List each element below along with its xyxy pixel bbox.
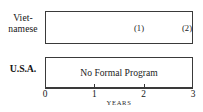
row-label-vietnamese-line1: Viet- bbox=[13, 12, 33, 23]
footnote-marker-2: (2) bbox=[182, 23, 192, 33]
row-label-usa: U.S.A. bbox=[2, 64, 44, 75]
x-axis-tick-label: 2 bbox=[137, 89, 151, 99]
bar-vietnamese: (1) (2) bbox=[45, 11, 193, 44]
timeline-figure: Viet- namese (1) (2) U.S.A. No Formal Pr… bbox=[0, 0, 203, 112]
bar-usa-text: No Formal Program bbox=[46, 67, 192, 78]
bar-usa: No Formal Program bbox=[45, 57, 193, 88]
row-label-vietnamese: Viet- namese bbox=[2, 13, 44, 34]
row-label-vietnamese-line2: namese bbox=[8, 23, 37, 34]
x-axis-title: YEARS bbox=[45, 99, 193, 106]
x-axis-tick-label: 3 bbox=[186, 89, 200, 99]
footnote-marker-1: (1) bbox=[134, 23, 144, 33]
x-axis: 0123 bbox=[45, 88, 193, 89]
x-axis-tick-label: 0 bbox=[38, 89, 52, 99]
x-axis-tick-label: 1 bbox=[87, 89, 101, 99]
